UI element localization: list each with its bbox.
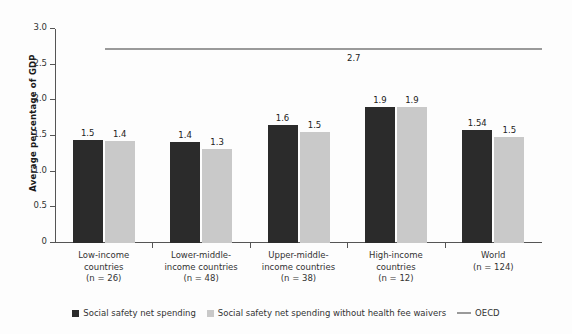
y-axis-tick-label: 0 xyxy=(42,236,47,246)
y-axis-tick-label: 2.5 xyxy=(33,58,47,68)
x-axis-tick xyxy=(250,243,251,248)
category-label-line: World xyxy=(445,250,542,262)
category-label-line: Upper-middle- xyxy=(250,250,347,262)
legend-swatch-light-icon xyxy=(207,310,214,317)
category-label-line: (n = 38) xyxy=(250,273,347,285)
legend-swatch-dark-icon xyxy=(72,310,79,317)
bar xyxy=(170,142,200,243)
oecd-reference-line xyxy=(105,48,542,50)
category-label-line: income countries xyxy=(152,262,249,274)
x-axis-category-label: Low-incomecountries(n = 26) xyxy=(55,250,152,285)
x-axis-category-label: High-incomecountries(n = 12) xyxy=(347,250,444,285)
y-axis-tick-label: 0.5 xyxy=(33,200,47,210)
category-label-line: (n = 12) xyxy=(347,273,444,285)
legend-item-oecd: OECD xyxy=(457,308,500,318)
legend-label: OECD xyxy=(475,308,500,318)
chart-figure: Average percentage of GDP 00.51.01.52.02… xyxy=(0,0,572,334)
category-label-line: High-income xyxy=(347,250,444,262)
x-axis-tick xyxy=(445,243,446,248)
bar xyxy=(105,141,135,243)
bar-value-label: 1.5 xyxy=(294,120,336,130)
bar xyxy=(494,137,524,243)
category-label-line: income countries xyxy=(250,262,347,274)
bar-value-label: 1.5 xyxy=(488,125,530,135)
y-axis-tick-label: 3.0 xyxy=(33,22,47,32)
y-axis-tick: 1.0 xyxy=(50,171,55,172)
bar-value-label: 1.4 xyxy=(99,129,141,139)
x-axis-category-label: Upper-middle-income countries(n = 38) xyxy=(250,250,347,285)
category-label-line: countries xyxy=(55,262,152,274)
y-axis-tick: 1.5 xyxy=(50,135,55,136)
category-label-line: (n = 48) xyxy=(152,273,249,285)
category-label-line: (n = 124) xyxy=(445,262,542,274)
bar xyxy=(462,130,492,243)
y-axis-tick-label: 1.0 xyxy=(33,165,47,175)
category-label-line: Lower-middle- xyxy=(152,250,249,262)
legend-line-icon xyxy=(457,312,471,314)
y-axis-tick: 2.5 xyxy=(50,64,55,65)
legend-label: Social safety net spending xyxy=(83,308,195,318)
chart-legend: Social safety net spending Social safety… xyxy=(0,308,572,318)
bar xyxy=(300,132,330,243)
legend-label: Social safety net spending without healt… xyxy=(218,308,446,318)
bar-value-label: 1.9 xyxy=(391,95,433,105)
bar xyxy=(397,107,427,243)
y-axis-tick-label: 1.5 xyxy=(33,129,47,139)
bar xyxy=(365,107,395,243)
y-axis-line xyxy=(55,29,56,243)
category-label-line: countries xyxy=(347,262,444,274)
bar xyxy=(268,125,298,243)
y-axis-tick-label: 2.0 xyxy=(33,93,47,103)
y-axis-tick: 3.0 xyxy=(50,28,55,29)
category-label-line: Low-income xyxy=(55,250,152,262)
legend-item-without-health-fee-waivers: Social safety net spending without healt… xyxy=(207,308,446,318)
x-axis-tick xyxy=(152,243,153,248)
y-axis-tick: 0 xyxy=(50,242,55,243)
bar-value-label: 1.3 xyxy=(196,137,238,147)
oecd-reference-value-label: 2.7 xyxy=(347,53,361,63)
x-axis-category-label: Lower-middle-income countries(n = 48) xyxy=(152,250,249,285)
y-axis-title: Average percentage of GDP xyxy=(28,28,38,218)
plot-area: 00.51.01.52.02.53.0 1.51.41.41.31.61.51.… xyxy=(55,29,542,243)
y-axis-tick: 2.0 xyxy=(50,99,55,100)
y-axis-tick: 0.5 xyxy=(50,206,55,207)
legend-item-social-safety-net-spending: Social safety net spending xyxy=(72,308,195,318)
bar xyxy=(202,149,232,243)
x-axis-tick xyxy=(347,243,348,248)
x-axis-category-label: World(n = 124) xyxy=(445,250,542,273)
category-label-line: (n = 26) xyxy=(55,273,152,285)
bar xyxy=(73,140,103,243)
